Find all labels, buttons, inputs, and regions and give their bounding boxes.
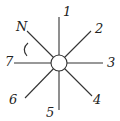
ray-label-4: 4 [92,92,101,107]
ray-label-3: 3 [107,55,115,70]
ray-label-n: N [15,19,28,34]
ray-label-5: 5 [46,105,54,120]
ray-label-2: 2 [94,21,103,36]
ray-label-7: 7 [5,54,14,69]
compass-ray-diagram: N1234567 [0,0,120,121]
ray-label-6: 6 [9,92,17,107]
angle-arc-icon [24,43,28,56]
ray-label-1: 1 [63,4,71,19]
center-circle [51,55,67,71]
